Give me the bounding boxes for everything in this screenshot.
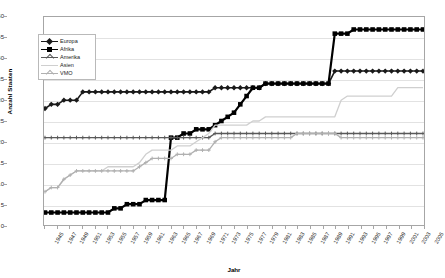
x-tick-mark bbox=[247, 226, 248, 229]
y-tick-mark bbox=[4, 37, 7, 38]
x-tick-label: 1973 bbox=[231, 231, 242, 245]
y-tick-mark bbox=[4, 100, 7, 101]
x-tick-mark bbox=[183, 226, 184, 229]
legend-swatch-icon bbox=[41, 69, 58, 77]
x-tick-label: 1985 bbox=[307, 231, 318, 245]
x-tick-label: 1995 bbox=[370, 231, 381, 245]
series-layer bbox=[44, 17, 424, 225]
x-tick-label: 1999 bbox=[395, 231, 406, 245]
x-tick-label: 1955 bbox=[117, 231, 128, 245]
x-tick-label: 1961 bbox=[155, 231, 166, 245]
chart-legend: EuropaAfrikaAmerikaAsienVMO bbox=[38, 34, 96, 80]
y-tick-mark bbox=[4, 142, 7, 143]
plot-area bbox=[43, 16, 425, 226]
x-tick-mark bbox=[107, 226, 108, 229]
legend-label: VMO bbox=[60, 69, 73, 77]
x-tick-mark bbox=[120, 226, 121, 229]
x-tick-label: 1987 bbox=[319, 231, 330, 245]
x-tick-label: 2001 bbox=[408, 231, 419, 245]
legend-swatch-icon bbox=[41, 45, 58, 53]
x-tick-mark bbox=[82, 226, 83, 229]
x-tick-label: 1997 bbox=[383, 231, 394, 245]
x-tick-label: 2003 bbox=[421, 231, 432, 245]
x-tick-mark bbox=[44, 226, 45, 229]
x-tick-mark bbox=[158, 226, 159, 229]
x-tick-label: 1971 bbox=[218, 231, 229, 245]
x-tick-mark bbox=[57, 226, 58, 229]
y-tick-mark bbox=[4, 205, 7, 206]
x-tick-label: 2005 bbox=[433, 231, 444, 245]
legend-swatch-icon bbox=[41, 53, 58, 61]
x-tick-label: 1975 bbox=[243, 231, 254, 245]
series-afrika bbox=[44, 27, 424, 215]
x-tick-mark bbox=[133, 226, 134, 229]
x-tick-label: 1989 bbox=[332, 231, 343, 245]
x-tick-label: 1965 bbox=[180, 231, 191, 245]
x-tick-mark bbox=[95, 226, 96, 229]
x-tick-label: 1949 bbox=[79, 231, 90, 245]
x-tick-mark bbox=[323, 226, 324, 229]
legend-item-vmo[interactable]: VMO bbox=[41, 69, 92, 77]
series-asien bbox=[45, 88, 423, 192]
x-axis-title: Jahr bbox=[43, 266, 425, 273]
x-tick-label: 1979 bbox=[269, 231, 280, 245]
x-tick-mark bbox=[209, 226, 210, 229]
x-tick-label: 1945 bbox=[53, 231, 64, 245]
series-europa bbox=[44, 68, 424, 111]
y-tick-mark bbox=[4, 184, 7, 185]
x-tick-label: 1963 bbox=[167, 231, 178, 245]
x-tick-label: 1957 bbox=[129, 231, 140, 245]
legend-label: Europa bbox=[60, 37, 78, 45]
x-tick-mark bbox=[221, 226, 222, 229]
legend-item-afrika[interactable]: Afrika bbox=[41, 45, 92, 53]
legend-item-amerika[interactable]: Amerika bbox=[41, 53, 92, 61]
x-tick-mark bbox=[272, 226, 273, 229]
x-tick-mark bbox=[373, 226, 374, 229]
y-tick-mark bbox=[4, 226, 7, 227]
x-tick-mark bbox=[145, 226, 146, 229]
x-tick-mark bbox=[424, 226, 425, 229]
x-tick-mark bbox=[348, 226, 349, 229]
x-tick-mark bbox=[361, 226, 362, 229]
x-tick-mark bbox=[310, 226, 311, 229]
x-tick-mark bbox=[234, 226, 235, 229]
legend-swatch-icon bbox=[41, 37, 58, 45]
x-tick-mark bbox=[171, 226, 172, 229]
y-tick-mark bbox=[4, 58, 7, 59]
x-tick-label: 1967 bbox=[193, 231, 204, 245]
x-tick-label: 1969 bbox=[205, 231, 216, 245]
x-tick-label: 1951 bbox=[91, 231, 102, 245]
series-vmo bbox=[44, 132, 424, 194]
legend-label: Amerika bbox=[60, 53, 80, 61]
legend-swatch-icon bbox=[41, 61, 58, 69]
x-tick-mark bbox=[297, 226, 298, 229]
x-tick-label: 1981 bbox=[281, 231, 292, 245]
y-tick-mark bbox=[4, 16, 7, 17]
x-tick-label: 1953 bbox=[104, 231, 115, 245]
x-tick-mark bbox=[285, 226, 286, 229]
legend-item-europa[interactable]: Europa bbox=[41, 37, 92, 45]
x-tick-mark bbox=[411, 226, 412, 229]
x-tick-label: 1983 bbox=[294, 231, 305, 245]
x-tick-mark bbox=[335, 226, 336, 229]
y-tick-mark bbox=[4, 163, 7, 164]
y-tick-mark bbox=[4, 79, 7, 80]
legend-label: Asien bbox=[60, 61, 74, 69]
x-tick-mark bbox=[399, 226, 400, 229]
x-tick-label: 1993 bbox=[357, 231, 368, 245]
x-tick-mark bbox=[69, 226, 70, 229]
y-tick-mark bbox=[4, 121, 7, 122]
x-tick-mark bbox=[386, 226, 387, 229]
x-tick-label: 1977 bbox=[256, 231, 267, 245]
legend-item-asien[interactable]: Asien bbox=[41, 61, 92, 69]
x-tick-mark bbox=[196, 226, 197, 229]
y-axis: Anzahl Staaten 05101520253035404550 bbox=[0, 0, 43, 242]
legend-label: Afrika bbox=[60, 45, 74, 53]
x-tick-label: 1991 bbox=[345, 231, 356, 245]
x-tick-mark bbox=[259, 226, 260, 229]
x-tick-label: 1959 bbox=[142, 231, 153, 245]
x-tick-label: 1947 bbox=[66, 231, 77, 245]
